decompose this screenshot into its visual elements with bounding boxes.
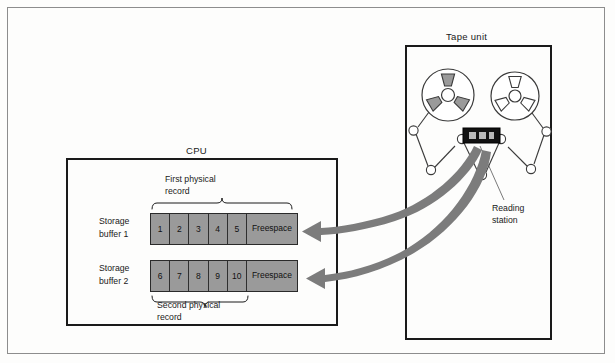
second-physical-record-line1: Second physical bbox=[157, 300, 220, 312]
reading-station-label: Reading station bbox=[492, 203, 524, 226]
storage-buffer-1-label-line2: buffer 1 bbox=[99, 228, 129, 241]
buffer-cell: 9 bbox=[209, 261, 228, 291]
first-physical-record-label: First physical record bbox=[165, 174, 216, 197]
buffer-free-space: Free space bbox=[247, 261, 297, 291]
buffer-cell: 3 bbox=[189, 214, 208, 244]
storage-buffer-2-label-line2: buffer 2 bbox=[99, 275, 129, 288]
buffer-cell: 7 bbox=[170, 261, 189, 291]
tape-unit-box bbox=[405, 45, 552, 340]
buffer-cell: 5 bbox=[228, 214, 247, 244]
buffer-free-space-line1: Free bbox=[252, 224, 269, 234]
reading-station-line1: Reading bbox=[492, 203, 524, 215]
first-physical-record-line2: record bbox=[165, 186, 216, 198]
buffer-cell: 2 bbox=[170, 214, 189, 244]
cpu-title: CPU bbox=[186, 145, 207, 156]
second-physical-record-line2: record bbox=[157, 312, 220, 324]
buffer-cell: 10 bbox=[228, 261, 247, 291]
storage-buffer-2-label-line1: Storage bbox=[99, 262, 129, 275]
buffer-free-space-line2: space bbox=[269, 271, 292, 281]
storage-buffer-1-label: Storage buffer 1 bbox=[99, 215, 129, 240]
buffer-free-space-line1: Free bbox=[252, 271, 269, 281]
storage-buffer-2: 6 7 8 9 10 Free space bbox=[150, 260, 298, 292]
tape-unit-title: Tape unit bbox=[446, 31, 487, 42]
storage-buffer-1: 1 2 3 4 5 Free space bbox=[150, 213, 298, 245]
buffer-free-space: Free space bbox=[247, 214, 297, 244]
buffer-cell: 8 bbox=[189, 261, 208, 291]
reading-station-line2: station bbox=[492, 215, 524, 227]
storage-buffer-2-label: Storage buffer 2 bbox=[99, 262, 129, 287]
buffer-cell: 4 bbox=[209, 214, 228, 244]
buffer-cell: 1 bbox=[151, 214, 170, 244]
buffer-free-space-line2: space bbox=[269, 224, 292, 234]
second-physical-record-label: Second physical record bbox=[157, 300, 220, 323]
figure-canvas: CPU Storage buffer 1 1 2 3 4 5 Free spac… bbox=[0, 0, 615, 363]
buffer-cell: 6 bbox=[151, 261, 170, 291]
storage-buffer-1-label-line1: Storage bbox=[99, 215, 129, 228]
first-physical-record-line1: First physical bbox=[165, 174, 216, 186]
